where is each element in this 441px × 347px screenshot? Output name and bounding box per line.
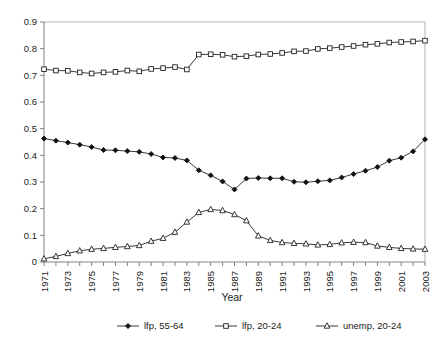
y-tick-label: 0.7 — [24, 70, 37, 81]
data-point — [256, 176, 261, 181]
data-point — [339, 175, 344, 180]
data-point — [161, 66, 166, 71]
data-point — [208, 206, 214, 211]
data-point — [196, 52, 201, 57]
data-point — [316, 47, 321, 52]
data-point — [77, 70, 82, 75]
data-point — [244, 54, 249, 59]
data-point — [208, 173, 213, 178]
y-tick-label: 0.8 — [24, 43, 37, 54]
data-point — [375, 42, 380, 47]
series-line — [44, 139, 425, 190]
chart-canvas: 0.90.80.70.60.50.40.30.20.10 19711973197… — [0, 0, 441, 347]
y-tick-label: 0.1 — [24, 230, 37, 241]
data-point — [304, 49, 309, 54]
data-point — [208, 52, 213, 57]
legend-marker-filled-diamond — [126, 324, 131, 329]
data-point — [411, 39, 416, 44]
data-point — [113, 148, 118, 153]
data-point — [220, 179, 225, 184]
x-tick-label: 1985 — [205, 271, 216, 292]
series-2 — [42, 38, 428, 75]
data-point — [172, 156, 177, 161]
data-point — [89, 145, 94, 150]
data-point — [315, 179, 320, 184]
data-point — [303, 180, 308, 185]
y-axis: 0.90.80.70.60.50.40.30.20.10 — [24, 16, 44, 267]
x-tick-label: 1999 — [372, 271, 383, 292]
x-tick-label: 1991 — [277, 271, 288, 292]
data-point — [161, 155, 166, 160]
x-axis: 1971197319751977197919811983198519871989… — [39, 262, 431, 292]
x-tick-label: 1983 — [181, 271, 192, 292]
data-point — [399, 40, 404, 45]
y-tick-label: 0.6 — [24, 96, 37, 107]
x-tick-label: 1971 — [39, 271, 50, 292]
x-tick-label: 1989 — [253, 271, 264, 292]
x-tick-label: 1995 — [324, 271, 335, 292]
data-point — [65, 140, 70, 145]
data-point — [363, 239, 369, 244]
data-point — [54, 68, 59, 73]
data-point — [184, 219, 190, 224]
data-point — [173, 65, 178, 70]
data-point — [327, 178, 332, 183]
x-tick-label: 1975 — [86, 271, 97, 292]
x-tick-label: 1981 — [158, 271, 169, 292]
y-tick-label: 0 — [32, 256, 37, 267]
data-point — [375, 165, 380, 170]
legend-marker-open-triangle — [324, 323, 330, 328]
legend-label: unemp, 20-24 — [343, 320, 402, 331]
legend-marker-open-square — [224, 324, 229, 329]
chart-legend: lfp, 55-64lfp, 20-24unemp, 20-24 — [117, 320, 402, 331]
data-point — [89, 71, 94, 76]
data-point — [125, 149, 130, 154]
data-point — [268, 176, 273, 181]
x-tick-label: 1979 — [134, 271, 145, 292]
series-layer — [41, 38, 428, 261]
x-tick-label: 1977 — [110, 271, 121, 292]
data-point — [185, 67, 190, 72]
data-point — [149, 67, 154, 72]
legend-item-1: lfp, 55-64 — [117, 320, 184, 331]
x-axis-title: Year — [221, 291, 243, 303]
data-point — [77, 142, 82, 147]
data-point — [327, 46, 332, 51]
y-tick-label: 0.9 — [24, 16, 37, 27]
data-point — [137, 69, 142, 74]
data-point — [101, 70, 106, 75]
legend-item-2: lfp, 20-24 — [215, 320, 282, 331]
data-point — [387, 158, 392, 163]
data-point — [42, 67, 47, 72]
data-point — [339, 45, 344, 50]
x-tick-label: 1997 — [348, 271, 359, 292]
x-tick-label: 1993 — [301, 271, 312, 292]
y-tick-label: 0.2 — [24, 203, 37, 214]
data-point — [351, 239, 357, 244]
data-point — [232, 54, 237, 59]
data-point — [423, 38, 428, 43]
data-point — [42, 136, 47, 141]
data-point — [172, 229, 178, 234]
data-point — [53, 138, 58, 143]
data-point — [256, 52, 261, 57]
data-point — [125, 68, 130, 73]
data-point — [351, 44, 356, 49]
data-point — [220, 53, 225, 58]
line-chart: 0.90.80.70.60.50.40.30.20.10 19711973197… — [0, 0, 441, 347]
x-tick-label: 2001 — [396, 271, 407, 292]
data-point — [101, 148, 106, 153]
y-tick-label: 0.3 — [24, 176, 37, 187]
data-point — [292, 179, 297, 184]
y-tick-label: 0.5 — [24, 123, 37, 134]
data-point — [149, 152, 154, 157]
data-point — [268, 52, 273, 57]
legend-label: lfp, 55-64 — [144, 320, 184, 331]
data-point — [280, 176, 285, 181]
data-point — [363, 168, 368, 173]
data-point — [399, 155, 404, 160]
series-1 — [42, 136, 428, 192]
series-3 — [41, 206, 428, 261]
legend-item-3: unemp, 20-24 — [316, 320, 402, 331]
data-point — [137, 149, 142, 154]
